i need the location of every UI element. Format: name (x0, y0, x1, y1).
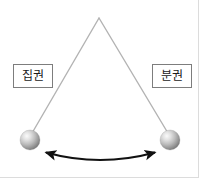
pendulum-diagram: 집권 분권 (0, 0, 199, 178)
label-text-centralization: 집권 (22, 70, 44, 82)
page-border (0, 0, 199, 178)
label-box-centralization: 집권 (13, 64, 53, 88)
label-box-decentralization: 분권 (152, 64, 192, 88)
diagram-canvas (0, 0, 199, 178)
pendulum-bob-right (160, 130, 180, 150)
pendulum-bob-left (20, 130, 40, 150)
swing-arrow (46, 153, 155, 161)
label-text-decentralization: 분권 (161, 70, 183, 82)
